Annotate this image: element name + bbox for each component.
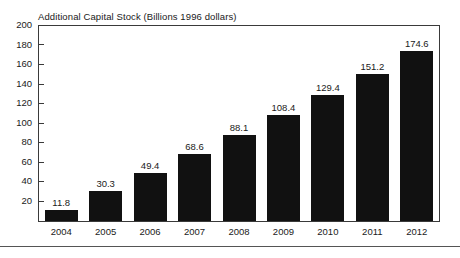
bar-group: 68.6 [178,26,211,221]
bar-value-label: 129.4 [316,83,340,93]
x-axis-tick-label: 2004 [39,226,83,238]
y-axis-tick-label: 200 [16,20,32,30]
y-axis: 20018016014012010080604020 [0,25,38,222]
bar-value-label: 88.1 [230,123,249,133]
bar [89,191,122,221]
bar [400,51,433,221]
bar-value-label: 68.6 [185,142,204,152]
y-axis-tick-label: 40 [21,176,32,186]
y-axis-tick-label: 80 [21,137,32,147]
bar-value-label: 11.8 [52,198,70,208]
x-axis-tick-label: 2008 [217,226,261,238]
x-axis-tick-label: 2012 [395,226,439,238]
bar-group: 30.3 [89,26,122,221]
bar-value-label: 108.4 [272,103,296,113]
x-axis-tick-label: 2005 [83,226,127,238]
bar [45,210,78,222]
bar [356,74,389,221]
bar [178,154,211,221]
y-axis-tick-label: 100 [16,118,32,128]
bar-value-label: 49.4 [141,161,160,171]
y-axis-tick-label: 160 [16,59,32,69]
x-axis-tick-label: 2010 [306,226,350,238]
x-axis-tick-label: 2006 [128,226,172,238]
bar-group: 174.6 [400,26,433,221]
bar [311,95,344,221]
y-axis-tick-label: 60 [21,157,32,167]
y-axis-tick-label: 20 [21,196,32,206]
x-axis-tick-label: 2009 [261,226,305,238]
bar-group: 129.4 [311,26,344,221]
bar-value-label: 174.6 [405,39,429,49]
bar [134,173,167,221]
x-axis: 200420052006200720082009201020112012 [39,226,439,240]
chart-figure: Additional Capital Stock (Billions 1996 … [0,0,460,258]
bar-group: 88.1 [223,26,256,221]
bar-value-label: 30.3 [96,179,115,189]
x-axis-tick-label: 2011 [350,226,394,238]
y-axis-tick-label: 120 [16,98,32,108]
bar-value-label: 151.2 [360,62,384,72]
x-axis-tick-label: 2007 [172,226,216,238]
chart-title: Additional Capital Stock (Billions 1996 … [38,11,237,22]
bar-group: 151.2 [356,26,389,221]
bottom-divider [0,246,460,247]
bars-layer: 11.830.349.468.688.1108.4129.4151.2174.6 [39,26,439,221]
bar [267,115,300,221]
y-axis-tick-label: 140 [16,79,32,89]
bar [223,135,256,221]
y-axis-tick-label: 180 [16,40,32,50]
bar-group: 11.8 [45,26,78,221]
bar-group: 49.4 [134,26,167,221]
bar-group: 108.4 [267,26,300,221]
